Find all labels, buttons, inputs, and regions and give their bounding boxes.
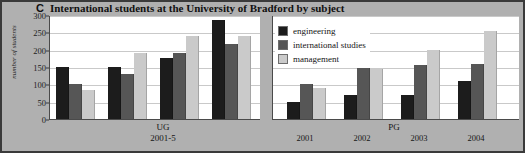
- plot-panel-ug: [49, 16, 260, 120]
- x-tick-label: 2003: [411, 133, 428, 143]
- legend-item: engineering: [278, 24, 366, 38]
- y-tick-mark: [46, 85, 49, 86]
- y-tick-label: 250: [33, 28, 46, 38]
- legend-label: international studies: [293, 40, 366, 50]
- bar: [471, 64, 484, 119]
- legend-label: management: [293, 54, 339, 64]
- bar: [173, 53, 186, 119]
- bar: [458, 81, 471, 119]
- chart-figure: C International students at the Universi…: [0, 0, 525, 153]
- bar: [401, 95, 414, 119]
- bar: [134, 53, 147, 119]
- x-tick-label: 2004: [468, 133, 485, 143]
- bar: [427, 50, 440, 119]
- bar: [56, 67, 69, 119]
- bar: [160, 58, 173, 119]
- bar: [82, 90, 95, 119]
- panel-letter: C: [36, 2, 44, 14]
- y-tick-mark: [46, 16, 49, 17]
- legend-item: international studies: [278, 38, 366, 52]
- y-tick-mark: [46, 50, 49, 51]
- bar-group: [56, 16, 95, 119]
- bar: [108, 67, 121, 119]
- bar: [357, 67, 370, 119]
- y-tick-mark: [46, 68, 49, 69]
- bar-group: [401, 16, 440, 119]
- bar: [121, 74, 134, 119]
- bar: [238, 36, 251, 119]
- legend-label: engineering: [293, 26, 335, 36]
- bar-group: [160, 16, 199, 119]
- bar-group: [108, 16, 147, 119]
- x-group-title-pg: PG: [388, 122, 400, 132]
- bar: [300, 84, 313, 119]
- chart-title: International students at the University…: [50, 2, 345, 14]
- legend-swatch-icon: [278, 54, 288, 64]
- bar-group: [458, 16, 497, 119]
- legend-swatch-icon: [278, 40, 288, 50]
- bar: [370, 69, 383, 119]
- y-tick-mark: [46, 120, 49, 121]
- bar: [225, 44, 238, 119]
- bar: [484, 31, 497, 119]
- x-tick-label: 2002: [354, 133, 371, 143]
- bar: [414, 65, 427, 119]
- y-tick-mark: [46, 33, 49, 34]
- x-group-title-ug: UG: [157, 122, 170, 132]
- y-tick-label: 150: [33, 63, 46, 73]
- legend-swatch-icon: [278, 26, 288, 36]
- bar: [212, 20, 225, 119]
- bars-ug: [50, 16, 260, 119]
- bar: [344, 95, 357, 119]
- chart-legend: engineeringinternational studiesmanageme…: [275, 22, 370, 68]
- y-axis-ticks: 050100150200250300: [8, 16, 46, 120]
- x-tick-label: 2001: [297, 133, 314, 143]
- bar: [69, 84, 82, 119]
- bar: [313, 88, 326, 119]
- bar: [287, 102, 300, 119]
- x-group-subtitle-ug: 2001-5: [150, 133, 176, 143]
- bar: [186, 36, 199, 119]
- y-tick-label: 200: [33, 46, 46, 56]
- y-tick-label: 50: [38, 98, 47, 108]
- bar-group: [212, 16, 251, 119]
- chart-title-row: C International students at the Universi…: [36, 1, 345, 15]
- y-tick-label: 100: [33, 80, 46, 90]
- y-tick-mark: [46, 102, 49, 103]
- legend-item: management: [278, 52, 366, 66]
